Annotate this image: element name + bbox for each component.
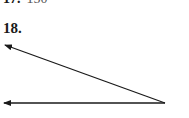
angle-diagram — [0, 0, 189, 118]
upper-ray — [5, 45, 165, 103]
